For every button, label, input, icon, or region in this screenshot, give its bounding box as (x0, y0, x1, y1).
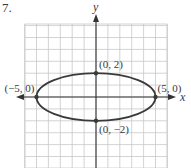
point-label: (5, 0) (158, 82, 182, 95)
point-marker (94, 71, 98, 75)
point-marker (94, 119, 98, 123)
problem-number: 7. (2, 0, 12, 15)
point-marker (34, 95, 38, 99)
y-axis-up-arrow-icon (93, 14, 99, 22)
point-label: (0, 2) (99, 58, 123, 71)
x-axis-label: x (179, 90, 186, 104)
ellipse-graph-figure: 7. (0, 2)(0, −2)(−5, 0)(5, 0) x y (0, 0, 191, 168)
x-axis-left-arrow-icon (16, 94, 24, 100)
point-marker (153, 95, 157, 99)
point-label: (0, −2) (99, 123, 129, 136)
x-axis-right-arrow-icon (168, 94, 176, 100)
point-label: (−5, 0) (4, 82, 34, 95)
y-axis-label: y (92, 0, 99, 14)
